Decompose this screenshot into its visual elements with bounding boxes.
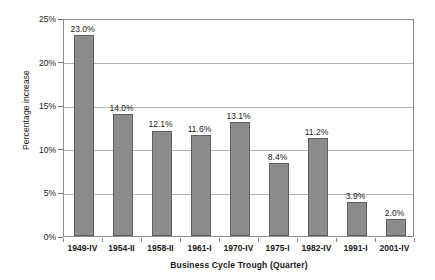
plot-area [63,19,414,237]
x-axis-category-label: 2001-IV [380,243,410,253]
x-axis-category-label: 1961-I [187,243,211,253]
bar [347,202,367,236]
bar [74,35,94,236]
x-axis-category-label: 1982-IV [302,243,332,253]
bar [152,131,172,237]
bar-value-label: 12.1% [148,119,172,129]
y-axis-tick-label: 20% [12,58,56,68]
bar-value-label: 3.9% [346,191,365,201]
bar-chart: Percentage increase 0%5%10%15%20%25% 194… [0,0,435,280]
x-axis-tick-mark [180,238,181,242]
bar-value-label: 8.4% [268,152,287,162]
x-axis-tick-mark [414,238,415,242]
bar-value-label: 14.0% [109,103,133,113]
y-axis-tick-label: 0% [12,232,56,242]
x-axis-tick-mark [336,238,337,242]
y-axis-tick-label: 5% [12,188,56,198]
bar-value-label: 23.0% [70,24,94,34]
x-axis-tick-mark [258,238,259,242]
y-axis-tick-label: 10% [12,145,56,155]
x-axis-category-label: 1949-IV [68,243,98,253]
bar [191,135,211,236]
x-axis-tick-mark [63,238,64,242]
bar [308,138,328,236]
x-axis-tick-mark [297,238,298,242]
x-axis-category-label: 1954-II [108,243,134,253]
x-axis-tick-mark [141,238,142,242]
x-axis-category-label: 1991-I [343,243,367,253]
x-axis-tick-mark [102,238,103,242]
x-axis-title: Business Cycle Trough (Quarter) [63,260,415,270]
bar-value-label: 11.6% [188,124,211,134]
x-axis-category-label: 1975-I [265,243,289,253]
bar [269,163,289,236]
gridline [64,63,413,64]
y-axis-tick-label: 25% [12,14,56,24]
bar [113,114,133,236]
x-axis-category-label: 1958-II [147,243,173,253]
bar-value-label: 11.2% [305,127,328,137]
y-axis-tick-label: 15% [12,101,56,111]
x-axis-category-label: 1970-IV [224,243,254,253]
x-axis-tick-mark [375,238,376,242]
bar-value-label: 2.0% [385,208,404,218]
bar [386,219,406,236]
x-axis-tick-mark [219,238,220,242]
bar-value-label: 13.1% [226,111,250,121]
bar [230,122,250,236]
